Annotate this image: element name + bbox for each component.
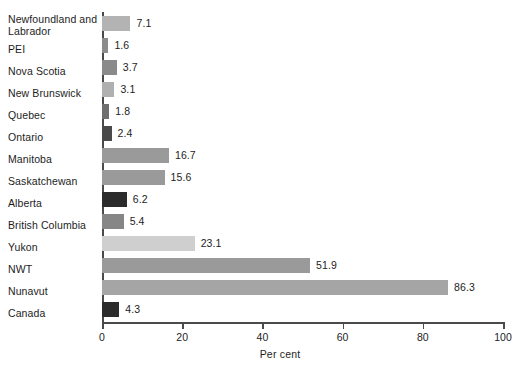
x-tick-label-0: 0 (99, 331, 105, 343)
bar-value-nwt: 51.9 (316, 258, 337, 273)
x-tick-80 (423, 322, 425, 329)
bar-saskatchewan (102, 170, 165, 185)
x-tick-label-100: 100 (494, 331, 512, 343)
bar-chart: Newfoundland and Labrador PEI Nova Scoti… (0, 0, 522, 370)
bar-value-quebec: 1.8 (115, 104, 130, 119)
bar-yukon (102, 236, 195, 251)
bar-manitoba (102, 148, 169, 163)
x-tick-0 (102, 322, 104, 329)
x-axis-title: Per cent (0, 348, 522, 360)
bar-value-ontario: 2.4 (118, 126, 133, 141)
category-label-alberta: Alberta (8, 197, 100, 209)
x-tick-label-60: 60 (337, 331, 349, 343)
bar-value-yukon: 23.1 (201, 236, 222, 251)
category-label-nwt: NWT (8, 263, 100, 275)
category-label-new-brunswick: New Brunswick (8, 87, 100, 99)
bar-value-pei: 1.6 (114, 38, 129, 53)
bar-nunavut (102, 280, 448, 295)
bar-nwt (102, 258, 310, 273)
category-label-nova-scotia: Nova Scotia (8, 65, 100, 77)
x-tick-20 (182, 322, 184, 329)
bar-quebec (102, 104, 109, 119)
bar-value-new-brunswick: 3.1 (120, 82, 135, 97)
bar-value-british-columbia: 5.4 (130, 214, 145, 229)
bar-alberta (102, 192, 127, 207)
bar-value-saskatchewan: 15.6 (171, 170, 192, 185)
bar-value-nova-scotia: 3.7 (123, 60, 138, 75)
x-tick-label-80: 80 (417, 331, 429, 343)
bar-nova-scotia (102, 60, 117, 75)
y-axis-line (102, 12, 104, 322)
bar-value-canada: 4.3 (125, 302, 140, 317)
bar-new-brunswick (102, 82, 114, 97)
bar-newfoundland-and-labrador (102, 16, 130, 31)
category-label-ontario: Ontario (8, 131, 100, 143)
x-tick-40 (262, 322, 264, 329)
bar-ontario (102, 126, 112, 141)
plot-area: 7.1 1.6 3.7 3.1 1.8 2.4 16.7 15.6 6.2 5.… (102, 12, 503, 322)
bar-value-alberta: 6.2 (133, 192, 148, 207)
x-axis-line (102, 322, 503, 324)
category-label-british-columbia: British Columbia (8, 219, 100, 231)
category-axis-labels: Newfoundland and Labrador PEI Nova Scoti… (0, 0, 98, 322)
category-label-yukon: Yukon (8, 241, 100, 253)
bar-canada (102, 302, 119, 317)
category-label-newfoundland-and-labrador: Newfoundland and Labrador (8, 13, 100, 37)
x-tick-100 (503, 322, 505, 329)
category-label-pei: PEI (8, 43, 100, 55)
x-axis-title-text: Per cent (260, 348, 301, 360)
category-label-manitoba: Manitoba (8, 153, 100, 165)
x-tick-label-40: 40 (257, 331, 269, 343)
category-label-saskatchewan: Saskatchewan (8, 175, 100, 187)
category-label-nunavut: Nunavut (8, 285, 100, 297)
bar-value-newfoundland-and-labrador: 7.1 (136, 16, 151, 31)
bar-value-nunavut: 86.3 (454, 280, 475, 295)
bar-british-columbia (102, 214, 124, 229)
bar-value-manitoba: 16.7 (175, 148, 196, 163)
category-label-canada: Canada (8, 307, 100, 319)
x-tick-label-20: 20 (176, 331, 188, 343)
category-label-quebec: Quebec (8, 109, 100, 121)
bar-pei (102, 38, 108, 53)
x-tick-60 (343, 322, 345, 329)
